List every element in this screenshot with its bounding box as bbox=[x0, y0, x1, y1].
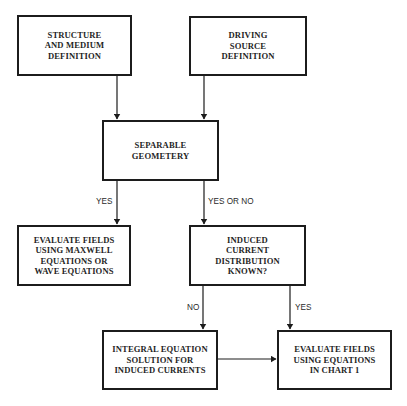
edge-label-yes-maxwell: YES bbox=[96, 197, 112, 206]
node-label: SEPARABLE GEOMETERY bbox=[132, 140, 189, 161]
node-evaluate-maxwell: EVALUATE FIELDS USING MAXWELL EQUATIONS … bbox=[17, 225, 131, 286]
node-label: DRIVING SOURCE DEFINITION bbox=[221, 30, 274, 62]
node-evaluate-chart1: EVALUATE FIELDS USING EQUATIONS IN CHART… bbox=[277, 330, 392, 390]
edge-label-no-integral: NO bbox=[187, 303, 199, 312]
node-label: INTEGRAL EQUATION SOLUTION FOR INDUCED C… bbox=[112, 344, 207, 376]
node-label: EVALUATE FIELDS USING MAXWELL EQUATIONS … bbox=[34, 235, 115, 277]
node-integral-equation-solution: INTEGRAL EQUATION SOLUTION FOR INDUCED C… bbox=[102, 330, 218, 390]
edge-label-yes-chart1: YES bbox=[295, 303, 311, 312]
node-label: INDUCED CURRENT DISTRIBUTION KNOWN? bbox=[215, 235, 280, 277]
edge-label-yes-or-no: YES OR NO bbox=[208, 197, 254, 206]
node-label: STRUCTURE AND MEDIUM DEFINITION bbox=[45, 30, 104, 62]
node-induced-current-known: INDUCED CURRENT DISTRIBUTION KNOWN? bbox=[189, 225, 306, 286]
node-separable-geometry: SEPARABLE GEOMETERY bbox=[102, 120, 219, 181]
node-structure-medium-definition: STRUCTURE AND MEDIUM DEFINITION bbox=[17, 15, 132, 76]
node-driving-source-definition: DRIVING SOURCE DEFINITION bbox=[189, 16, 307, 76]
node-label: EVALUATE FIELDS USING EQUATIONS IN CHART… bbox=[294, 344, 376, 376]
